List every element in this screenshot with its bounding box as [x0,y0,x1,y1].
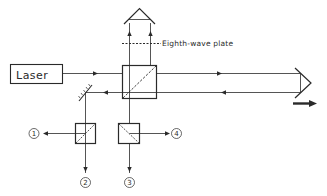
interferometer-diagram: Laser Eighth-wave plate 1 2 3 4 [0,0,327,196]
output-beam-4 [130,131,171,135]
measurement-beam-return [86,90,301,94]
mirror-beam-down [83,93,87,174]
detector-4-label: 4 [174,130,179,138]
detector-1-label: 1 [32,130,36,138]
roof-prism [124,9,155,25]
input-beam [63,71,123,75]
diagram-svg: Laser Eighth-wave plate 1 2 3 4 [0,0,327,196]
output-beam-3 [127,144,131,174]
measurement-beam-out [157,71,301,75]
main-beam-splitter [123,66,157,99]
detector-2-label: 2 [83,179,87,187]
motion-arrow [293,100,317,107]
corner-cube-retroreflector [295,68,311,98]
laser-label: Laser [16,69,48,82]
wave-plate-label: Eighth-wave plate [162,39,233,48]
detector-3-label: 3 [127,179,131,187]
reference-beams [127,23,152,123]
output-beam-1 [43,131,86,135]
